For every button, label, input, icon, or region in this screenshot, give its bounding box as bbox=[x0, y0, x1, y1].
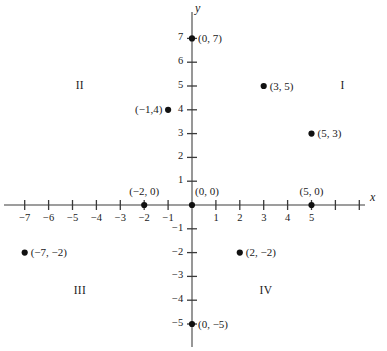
x-tick-label: 1 bbox=[213, 213, 218, 224]
quadrant-label-i: I bbox=[341, 80, 345, 92]
data-point bbox=[189, 202, 195, 208]
data-point bbox=[189, 35, 195, 41]
x-tick-label: −4 bbox=[91, 213, 102, 224]
data-point-label: (−1,4) bbox=[135, 104, 162, 115]
plot-svg bbox=[0, 0, 387, 351]
x-tick-label: 3 bbox=[261, 213, 266, 224]
y-tick-label: 6 bbox=[178, 56, 183, 67]
x-tick-label: −2 bbox=[139, 213, 150, 224]
quadrant-label-iii: III bbox=[74, 285, 86, 297]
y-tick-label: −2 bbox=[172, 247, 183, 258]
data-point-label: (0, 0) bbox=[195, 186, 219, 197]
y-tick-label: 2 bbox=[178, 151, 183, 162]
quadrant-label-ii: II bbox=[76, 80, 84, 92]
y-tick-label: 1 bbox=[178, 175, 183, 186]
x-tick-label: −3 bbox=[115, 213, 126, 224]
y-tick-label: −5 bbox=[172, 318, 183, 329]
data-point-label: (0, 7) bbox=[198, 33, 222, 44]
coordinate-plane-figure: −7−6−5−4−3−2−1123457654321−1−2−3−4−5xy(0… bbox=[0, 0, 387, 351]
data-point bbox=[189, 321, 195, 327]
x-tick-label: 5 bbox=[309, 213, 314, 224]
quadrant-label-iv: IV bbox=[260, 285, 273, 297]
y-tick-label: −3 bbox=[172, 270, 183, 281]
data-point-label: (2, −2) bbox=[246, 247, 276, 258]
x-tick-label: −6 bbox=[43, 213, 54, 224]
y-tick-label: 4 bbox=[178, 104, 183, 115]
data-point bbox=[165, 107, 171, 113]
data-point-label: (5, 0) bbox=[300, 186, 324, 197]
y-tick-label: 3 bbox=[178, 128, 183, 139]
data-point-label: (−7, −2) bbox=[31, 247, 67, 258]
data-point-label: (5, 3) bbox=[318, 128, 342, 139]
y-tick-label: −1 bbox=[172, 223, 183, 234]
y-tick-label: 7 bbox=[178, 32, 183, 43]
x-tick-label: 2 bbox=[237, 213, 242, 224]
data-point bbox=[141, 202, 147, 208]
data-point bbox=[237, 250, 243, 256]
y-tick-label: −4 bbox=[172, 294, 183, 305]
x-tick-label: −5 bbox=[67, 213, 78, 224]
data-point bbox=[308, 202, 314, 208]
data-point-label: (0, −5) bbox=[198, 319, 228, 330]
data-point bbox=[261, 83, 267, 89]
data-point bbox=[22, 250, 28, 256]
y-tick-label: 5 bbox=[178, 80, 183, 91]
x-tick-label: −7 bbox=[19, 213, 30, 224]
data-point-label: (3, 5) bbox=[270, 81, 294, 92]
data-point-label: (−2, 0) bbox=[129, 186, 159, 197]
x-tick-label: 4 bbox=[285, 213, 290, 224]
y-axis-name: y bbox=[195, 2, 200, 14]
x-axis-name: x bbox=[370, 191, 375, 203]
data-point bbox=[308, 131, 314, 137]
